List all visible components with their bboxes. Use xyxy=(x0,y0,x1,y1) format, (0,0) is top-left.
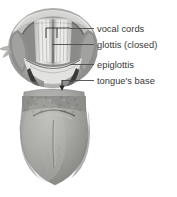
larynx-group xyxy=(0,8,98,92)
callout-label-epiglottis: epiglottis xyxy=(97,60,134,70)
callout-label-glottis: glottis (closed) xyxy=(97,40,157,50)
callout-label-vocal-cords: vocal cords xyxy=(97,24,144,34)
anatomy-figure: vocal cords glottis (closed) epiglottis … xyxy=(0,0,177,197)
tongue-dorsum-highlight xyxy=(22,98,66,182)
tongue-group xyxy=(18,87,90,185)
specimen-illustration xyxy=(0,0,177,197)
callout-label-tongues-base: tongue's base xyxy=(97,76,155,86)
